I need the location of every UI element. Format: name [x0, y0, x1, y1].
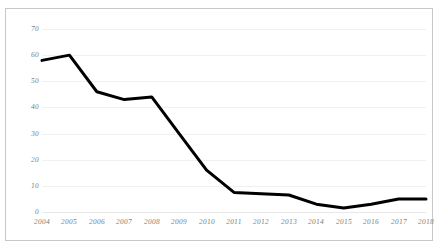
line-series-svg	[6, 9, 434, 242]
chart-frame: 010203040506070 200420052006200720082009…	[5, 8, 433, 241]
x-tick-label-2018: 2018	[405, 217, 441, 226]
plot-area: 010203040506070 200420052006200720082009…	[6, 9, 434, 242]
data-line-series-1	[42, 55, 426, 208]
x-axis-tick-labels: 2004200520062007200820092010201120122013…	[42, 217, 426, 235]
